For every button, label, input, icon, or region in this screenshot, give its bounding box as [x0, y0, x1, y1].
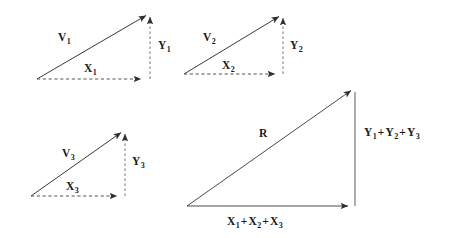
label-sum-y: Y1+Y2+Y3 — [364, 127, 420, 139]
label-v3: V3 — [62, 148, 75, 160]
label-x2: X2 — [222, 60, 235, 72]
label-r: R — [259, 128, 268, 140]
label-y1: Y1 — [158, 40, 171, 52]
label-y2: Y2 — [290, 40, 303, 52]
label-sum-x: X1+X2+X3 — [227, 216, 283, 228]
vector-addition-diagram: V1 X1 Y1 V2 X2 Y2 V3 X3 Y3 R X1+X2+X3 Y1… — [0, 0, 450, 238]
label-y3: Y3 — [132, 156, 145, 168]
label-x3: X3 — [66, 181, 79, 193]
label-x1: X1 — [84, 63, 97, 75]
resultant-hypotenuse — [187, 91, 351, 207]
label-v1: V1 — [58, 32, 71, 44]
label-v2: V2 — [203, 32, 216, 44]
resultant-group — [187, 91, 355, 207]
